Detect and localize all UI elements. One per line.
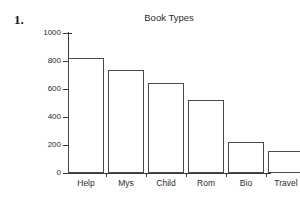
x-axis-category-label-rom: Rom [197, 179, 215, 188]
bar-help [68, 58, 104, 173]
bar-chart-figure: 1. Book Types 02004006008001000 HelpMysC… [0, 0, 300, 200]
bar-rom [188, 100, 224, 174]
x-axis-category-label-child: Child [156, 179, 175, 188]
x-axis-tick [226, 173, 227, 177]
y-axis-tick-label: 400 [48, 113, 61, 121]
x-axis-category-label-bio: Bio [240, 179, 252, 188]
y-axis-tick-inner [68, 33, 72, 34]
plot-area: 02004006008001000 [68, 33, 270, 173]
bar-mys [108, 70, 144, 173]
chart-title: Book Types [68, 12, 270, 23]
y-axis-tick-label: 0 [57, 169, 61, 177]
y-axis-tick-label: 200 [48, 141, 61, 149]
y-axis-tick-label: 800 [48, 57, 61, 65]
x-axis-tick [186, 173, 187, 177]
problem-number-label: 1. [14, 12, 24, 28]
x-axis-line [68, 173, 271, 174]
bar-child [148, 83, 184, 173]
x-axis-category-label-help: Help [77, 179, 94, 188]
x-axis-category-label-mys: Mys [118, 179, 134, 188]
bar-bio [228, 142, 264, 173]
x-axis-tick [106, 173, 107, 177]
x-axis-category-label-travel: Travel [274, 179, 297, 188]
bar-travel [268, 151, 300, 173]
y-axis-tick-label: 1000 [43, 29, 61, 37]
y-axis-tick-inner [68, 173, 72, 174]
y-axis-tick-label: 600 [48, 85, 61, 93]
x-axis-tick [266, 173, 267, 177]
x-axis-tick [146, 173, 147, 177]
